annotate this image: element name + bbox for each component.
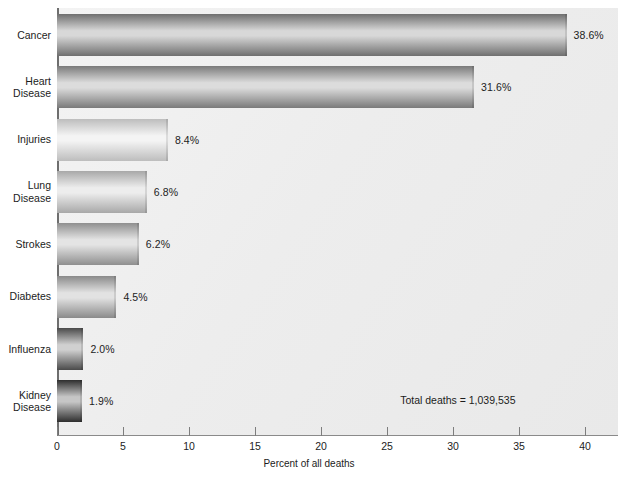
category-label: Injuries <box>2 133 51 146</box>
bar <box>57 223 139 265</box>
x-axis-tick-label: 5 <box>103 440 143 452</box>
total-deaths-annotation: Total deaths = 1,039,535 <box>400 394 515 406</box>
bar-row: 4.5% <box>0 276 618 318</box>
bar-value-label: 2.0% <box>90 343 114 355</box>
x-axis-tick <box>387 427 388 436</box>
x-axis-tick <box>255 427 256 436</box>
x-axis-tick-label: 15 <box>235 440 275 452</box>
category-label: Heart Disease <box>2 75 51 100</box>
category-label: Lung Disease <box>2 179 51 204</box>
x-axis-tick-label: 10 <box>169 440 209 452</box>
category-label: Cancer <box>2 29 51 42</box>
x-axis-title: Percent of all deaths <box>0 458 618 469</box>
bar <box>57 328 83 370</box>
bar-value-label: 1.9% <box>89 395 113 407</box>
bar <box>57 119 168 161</box>
x-axis-tick <box>585 427 586 436</box>
x-axis-tick-label: 0 <box>37 440 77 452</box>
bar-value-label: 6.8% <box>154 186 178 198</box>
bar <box>57 380 82 422</box>
x-axis-tick-label: 20 <box>301 440 341 452</box>
x-axis-tick <box>453 427 454 436</box>
bar-row: 38.6% <box>0 14 618 56</box>
bar-row: 6.8% <box>0 171 618 213</box>
category-label: Strokes <box>2 238 51 251</box>
category-label: Diabetes <box>2 290 51 303</box>
x-axis-line <box>57 435 618 436</box>
x-axis-tick-label: 30 <box>433 440 473 452</box>
bar <box>57 276 116 318</box>
x-axis-tick-label: 35 <box>499 440 539 452</box>
category-label: Kidney Disease <box>2 389 51 414</box>
bar <box>57 14 567 56</box>
bar-row: 8.4% <box>0 119 618 161</box>
bar-row: 1.9% <box>0 380 618 422</box>
bar-value-label: 38.6% <box>574 29 604 41</box>
x-axis-tick <box>123 427 124 436</box>
x-axis-tick-label: 40 <box>565 440 605 452</box>
bar <box>57 66 474 108</box>
x-axis-tick <box>519 427 520 436</box>
bar-row: 31.6% <box>0 66 618 108</box>
bar-chart: 38.6%31.6%8.4%6.8%6.2%4.5%2.0%1.9% Cance… <box>0 0 618 479</box>
x-axis-tick <box>189 427 190 436</box>
category-label: Influenza <box>2 343 51 356</box>
x-axis-tick <box>57 427 58 436</box>
bar-value-label: 4.5% <box>123 291 147 303</box>
bar-value-label: 8.4% <box>175 134 199 146</box>
bar-value-label: 31.6% <box>481 81 511 93</box>
bar-row: 2.0% <box>0 328 618 370</box>
x-axis-tick <box>321 427 322 436</box>
bar <box>57 171 147 213</box>
bar-row: 6.2% <box>0 223 618 265</box>
x-axis-tick-label: 25 <box>367 440 407 452</box>
bar-value-label: 6.2% <box>146 238 170 250</box>
